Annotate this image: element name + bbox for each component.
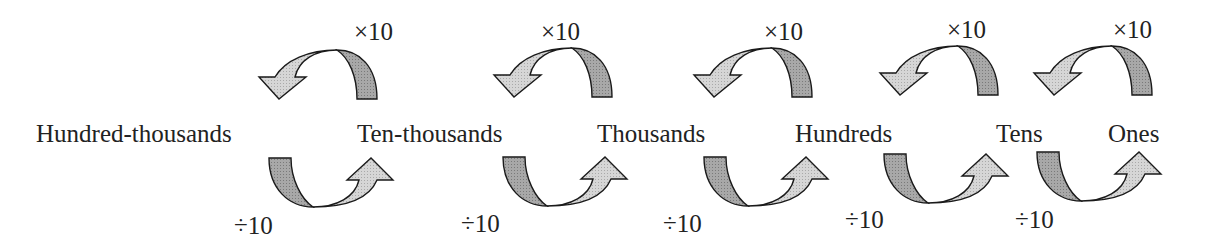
place-label-hundreds: Hundreds xyxy=(795,119,892,149)
multiply-label-4: ×10 xyxy=(947,16,986,44)
divide-label-4: ÷10 xyxy=(845,206,884,234)
multiply-arrow-2 xyxy=(494,48,612,97)
divide-label-2: ÷10 xyxy=(461,210,500,238)
multiply-arrow-4 xyxy=(880,46,998,95)
divide-arrow-1 xyxy=(269,158,393,207)
multiply-label-3: ×10 xyxy=(764,18,803,46)
divide-arrow-2 xyxy=(503,157,627,206)
place-label-ones: Ones xyxy=(1108,119,1159,149)
place-label-tens: Tens xyxy=(996,119,1043,149)
divide-label-3: ÷10 xyxy=(663,210,702,238)
multiply-arrow-1 xyxy=(259,50,377,99)
divide-arrow-4 xyxy=(884,154,1008,203)
multiply-label-1: ×10 xyxy=(354,18,393,46)
multiply-arrow-5 xyxy=(1034,46,1152,95)
place-label-thousands: Thousands xyxy=(597,119,705,149)
place-label-ten-thousands: Ten-thousands xyxy=(357,119,502,149)
place-label-hundred-thousands: Hundred-thousands xyxy=(36,119,232,149)
divide-label-5: ÷10 xyxy=(1015,206,1054,234)
divide-arrow-3 xyxy=(704,157,828,206)
multiply-label-2: ×10 xyxy=(541,18,580,46)
multiply-arrow-3 xyxy=(694,48,812,97)
divide-label-1: ÷10 xyxy=(234,212,273,240)
multiply-label-5: ×10 xyxy=(1113,16,1152,44)
divide-arrow-5 xyxy=(1037,152,1161,201)
